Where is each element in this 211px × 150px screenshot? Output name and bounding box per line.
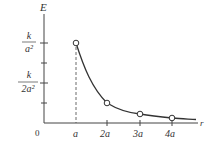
x-axis-label: r	[200, 118, 204, 128]
marker-r-a	[73, 40, 79, 46]
x-tick-label-a: a	[73, 128, 78, 139]
origin-label: 0	[35, 128, 40, 138]
svg-text:2a²: 2a²	[22, 83, 36, 94]
y-axis-label: E	[39, 1, 47, 13]
x-tick-label-3a: 3a	[132, 128, 143, 139]
marker-r-4a	[169, 115, 175, 121]
svg-text:k: k	[27, 69, 32, 80]
curve-e-of-r	[76, 43, 196, 120]
marker-r-3a	[137, 111, 143, 117]
chart-canvas: E r 0 a 2a 3a 4a k a² k 2a²	[0, 0, 211, 150]
y-tick-label-k-over-a2: k a²	[22, 30, 36, 54]
y-tick-label-k-over-2a2: k 2a²	[18, 69, 38, 94]
svg-text:a²: a²	[25, 43, 34, 54]
svg-text:k: k	[27, 30, 32, 41]
x-tick-label-2a: 2a	[100, 128, 110, 139]
data-markers	[73, 40, 175, 121]
marker-r-2a	[104, 100, 110, 106]
x-tick-label-4a: 4a	[165, 128, 175, 139]
